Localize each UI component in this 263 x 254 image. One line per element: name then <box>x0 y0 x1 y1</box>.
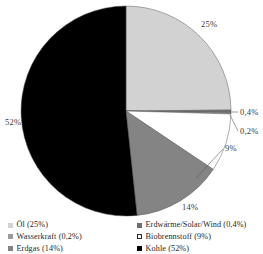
legend-label-öl: Öl (25%) <box>17 221 49 229</box>
slice-value-label-erdgas: 14% <box>182 203 198 212</box>
pie-chart-plot-area: 25% 0,4% 0,2% 9% 14% 52% <box>0 0 263 218</box>
legend-column-left: Öl (25%)Wasserkraft (0,2%)Erdgas (14%) <box>8 220 82 254</box>
legend-item-wasserkraft[interactable]: Wasserkraft (0,2%) <box>8 232 82 243</box>
legend-item-erdwärme-solar-wind[interactable]: Erdwärme/Solar/Wind (0,4%) <box>137 220 246 231</box>
legend-item-kohle[interactable]: Kohle (52%) <box>137 243 246 254</box>
legend-swatch-öl <box>8 223 13 228</box>
legend-item-biobrennstoff[interactable]: Biobrennstoff (9%) <box>137 232 246 243</box>
leader-line-wasserkraft <box>230 115 238 131</box>
legend-column-right: Erdwärme/Solar/Wind (0,4%)Biobrennstoff … <box>137 220 246 254</box>
slice-value-label-wasserkraft: 0,2% <box>240 127 259 136</box>
pie-slice-kohle[interactable] <box>21 6 137 216</box>
slice-value-label-erdwaerme: 0,4% <box>240 108 259 117</box>
legend-swatch-kohle <box>137 246 142 251</box>
legend-label-biobrennstoff: Biobrennstoff (9%) <box>146 233 212 241</box>
slice-value-label-biobrennstoff: 9% <box>225 144 237 153</box>
pie-slices-group <box>21 6 231 216</box>
legend-item-erdgas[interactable]: Erdgas (14%) <box>8 243 82 254</box>
slice-value-label-oel: 25% <box>201 20 217 29</box>
legend-label-erdwärme-solar-wind: Erdwärme/Solar/Wind (0,4%) <box>146 221 247 229</box>
legend-swatch-wasserkraft <box>8 234 13 239</box>
legend-swatch-erdgas <box>8 246 13 251</box>
chart-legend: Öl (25%)Wasserkraft (0,2%)Erdgas (14%) E… <box>0 220 263 254</box>
legend-label-erdgas: Erdgas (14%) <box>17 245 63 253</box>
pie-chart-svg <box>0 0 263 218</box>
legend-swatch-erdwärme-solar-wind <box>137 223 142 228</box>
slice-value-label-kohle: 52% <box>5 118 21 127</box>
legend-item-öl[interactable]: Öl (25%) <box>8 220 82 231</box>
pie-chart-figure: 25% 0,4% 0,2% 9% 14% 52% Öl (25%)Wasserk… <box>0 0 263 254</box>
legend-label-wasserkraft: Wasserkraft (0,2%) <box>17 233 82 241</box>
legend-swatch-biobrennstoff <box>137 234 142 239</box>
legend-label-kohle: Kohle (52%) <box>146 245 190 253</box>
